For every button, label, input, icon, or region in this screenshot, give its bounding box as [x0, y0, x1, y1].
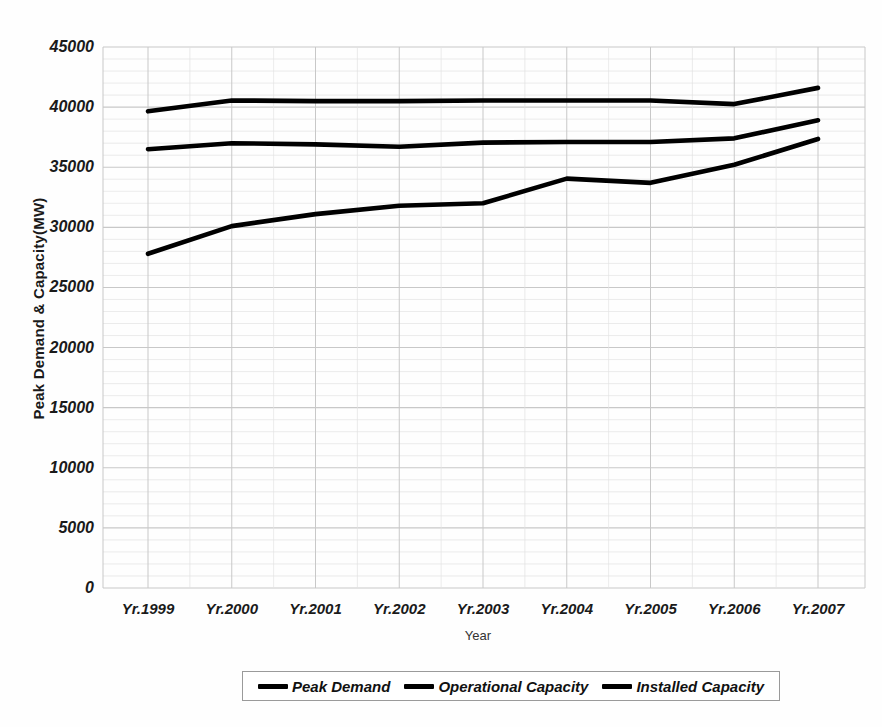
chart-legend: Peak DemandOperational CapacityInstalled…: [242, 671, 780, 701]
x-axis-tick-label: Yr.2007: [792, 600, 845, 617]
y-axis-tick-label: 35000: [20, 158, 94, 176]
x-axis-tick-label: Yr.2000: [205, 600, 258, 617]
legend-item: Installed Capacity: [602, 678, 764, 695]
x-axis-tick-label: Yr.1999: [122, 600, 175, 617]
y-axis-tick-label: 45000: [20, 38, 94, 56]
legend-item: Peak Demand: [258, 678, 390, 695]
legend-label: Peak Demand: [292, 678, 390, 695]
x-axis-tick-label: Yr.2005: [624, 600, 677, 617]
x-axis-tick-label: Yr.2006: [708, 600, 761, 617]
y-axis-tick-label: 5000: [20, 519, 94, 537]
x-axis-tick-label: Yr.2001: [289, 600, 342, 617]
y-axis-tick-label: 20000: [20, 339, 94, 357]
legend-line-icon: [602, 684, 632, 689]
y-axis-ticks: 0500010000150002000025000300003500040000…: [10, 0, 94, 727]
line-chart: Peak Demand & Capacity(MW) 0500010000150…: [0, 0, 882, 727]
legend-label: Installed Capacity: [636, 678, 764, 695]
legend-label: Operational Capacity: [438, 678, 588, 695]
legend-line-icon: [258, 684, 288, 689]
plot-area: [0, 0, 882, 727]
x-axis-tick-label: Yr.2002: [373, 600, 426, 617]
legend-line-icon: [404, 684, 434, 689]
y-axis-tick-label: 0: [20, 579, 94, 597]
legend-item: Operational Capacity: [404, 678, 588, 695]
y-axis-tick-label: 10000: [20, 459, 94, 477]
x-axis-title: Year: [465, 628, 491, 643]
y-axis-tick-label: 30000: [20, 218, 94, 236]
y-axis-tick-label: 25000: [20, 278, 94, 296]
y-axis-tick-label: 15000: [20, 399, 94, 417]
x-axis-tick-label: Yr.2003: [457, 600, 510, 617]
x-axis-tick-label: Yr.2004: [540, 600, 593, 617]
y-axis-tick-label: 40000: [20, 98, 94, 116]
